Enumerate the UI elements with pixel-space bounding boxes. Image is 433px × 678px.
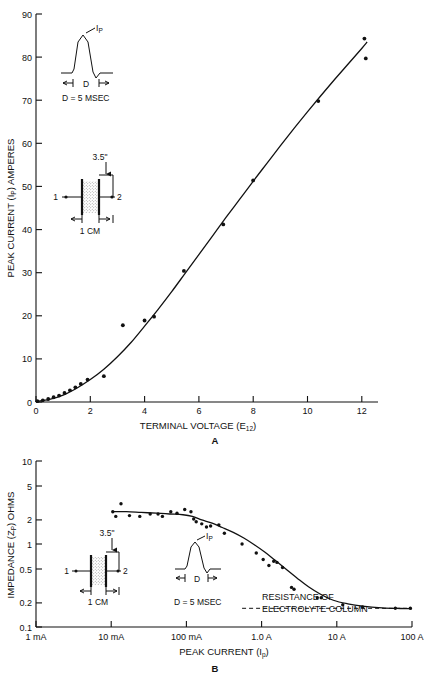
panel-b-pulse-peak-label: IP	[206, 531, 213, 542]
data-point	[251, 179, 255, 183]
panel-a-pulse-peak-label: IP	[96, 23, 103, 34]
panel-a-x-ticks	[36, 396, 362, 402]
data-point	[169, 510, 172, 513]
data-point	[175, 512, 178, 515]
panel-b-ytick-0.2: 0.2	[19, 598, 32, 608]
data-point	[73, 385, 77, 389]
data-point	[316, 99, 320, 103]
panel-a-ytick-70: 70	[22, 96, 32, 106]
panel-b-annotation-line2: ELECTROLYTE COLUMN	[262, 604, 368, 614]
data-point	[272, 560, 275, 563]
panel-a-xtick-2: 2	[88, 406, 93, 416]
data-point	[68, 388, 72, 392]
panel-a-y-tick-labels: 0 10 20 30 40 50 60 70 80 90	[22, 10, 32, 408]
panel-a-ytick-50: 50	[22, 182, 32, 192]
data-point	[119, 502, 122, 505]
panel-b-label: B	[212, 663, 219, 674]
data-point	[152, 315, 156, 319]
panel-b-annotation: RESISTANCE OF ELECTROLYTE COLUMN	[262, 592, 368, 614]
panel-a-ytick-40: 40	[22, 225, 32, 235]
panel-a-y-axis-title: PEAK CURRENT (IP) AMPERES	[5, 139, 17, 278]
panel-b-y-axis-title: IMPEDANCE (ZP) OHMS	[5, 492, 17, 599]
data-point	[183, 508, 186, 511]
data-point	[217, 523, 220, 526]
data-point	[275, 561, 278, 564]
panel-a-inset-width-label: 1 CM	[80, 226, 100, 236]
panel-a-xtick-4: 4	[142, 406, 147, 416]
panel-b-ytick-1: 1	[27, 540, 32, 550]
data-point	[128, 514, 131, 517]
chart-panel-a: 0 10 20 30 40 50 60 70 80 90	[5, 10, 378, 447]
panel-b-ytick-2: 2	[27, 515, 32, 525]
data-point	[79, 382, 83, 386]
panel-b-inset-width-label: 1 CM	[88, 597, 108, 607]
data-point	[161, 515, 164, 518]
panel-a-ytick-60: 60	[22, 139, 32, 149]
panel-a-terminal-1-label: 1	[53, 192, 58, 202]
panel-a-ytick-90: 90	[22, 10, 32, 20]
data-point	[363, 37, 367, 41]
data-point	[57, 394, 61, 398]
panel-a-xtick-6: 6	[196, 406, 201, 416]
panel-b-pulse-caption: D = 5 MSEC	[174, 597, 221, 607]
data-point	[148, 512, 151, 515]
data-point	[114, 515, 117, 518]
data-point	[240, 542, 243, 545]
panel-b-xtick-10ma: 10 mA	[98, 632, 124, 642]
data-point	[200, 522, 203, 525]
panel-a-ytick-10: 10	[22, 354, 32, 364]
panel-b-x-ticks	[36, 621, 412, 627]
data-point	[261, 558, 264, 561]
data-point	[111, 510, 114, 513]
panel-b-pulse-duration-label: D	[194, 574, 200, 584]
data-point	[121, 323, 125, 327]
data-point	[195, 520, 198, 523]
panel-a-ytick-20: 20	[22, 311, 32, 321]
panel-b-ytick-10: 10	[22, 457, 32, 467]
panel-a-terminal-2-label: 2	[117, 192, 122, 202]
panel-b-xtick-1a: 1.0 A	[251, 632, 272, 642]
panel-b-xtick-1ma: 1 mA	[25, 632, 46, 642]
chart-panel-b: 10 5 2 1 0.5 0.2 0.1 1 mA 10 mA 100 mA	[5, 457, 424, 675]
panel-b-x-axis-title: PEAK CURRENT (Ip)	[179, 646, 269, 659]
panel-a-xtick-10: 10	[302, 406, 312, 416]
panel-a-x-axis-title: TERMINAL VOLTAGE (E12)	[140, 420, 256, 432]
panel-a-pulse-caption: D = 5 MSEC	[62, 93, 109, 103]
panel-a-inset-pulse-waveform: IP D D = 5 MSEC	[61, 23, 113, 103]
panel-b-ytick-0.5: 0.5	[19, 565, 32, 575]
data-point	[255, 551, 258, 554]
panel-b-x-tick-labels: 1 mA 10 mA 100 mA 1.0 A 10 A 100 A	[25, 632, 423, 642]
data-point	[209, 524, 212, 527]
data-point	[281, 566, 284, 569]
data-point	[138, 515, 141, 518]
panel-a-xtick-8: 8	[251, 406, 256, 416]
panel-b-y-ticks	[36, 461, 42, 627]
panel-b-inset-height-label: 3.5"	[100, 528, 115, 538]
panel-a-inset-electrolyte-column: 1 2 3.5" 1 CM	[53, 152, 122, 236]
data-point	[63, 391, 67, 395]
data-point	[52, 395, 56, 399]
panel-b-xtick-100a: 100 A	[400, 632, 423, 642]
data-point	[267, 564, 270, 567]
data-point	[156, 512, 159, 515]
panel-b-terminal-1-label: 1	[64, 566, 69, 576]
data-point	[292, 588, 295, 591]
panel-a-pulse-duration-label: D	[83, 79, 89, 89]
data-point	[143, 319, 147, 323]
panel-a-x-tick-labels: 0 2 4 6 8 10 12	[33, 406, 366, 416]
panel-b-ytick-5: 5	[27, 482, 32, 492]
panel-b-inset-pulse-waveform: IP D D = 5 MSEC	[174, 531, 221, 607]
panel-a-inset-height-label: 3.5"	[93, 152, 108, 162]
data-point	[35, 399, 39, 403]
data-point	[221, 222, 225, 226]
data-point	[46, 397, 50, 401]
figure-root: 0 10 20 30 40 50 60 70 80 90	[0, 0, 433, 678]
panel-a-y-ticks	[36, 14, 42, 402]
panel-b-xtick-100ma: 100 mA	[171, 632, 202, 642]
panel-b-y-tick-labels: 10 5 2 1 0.5 0.2 0.1	[19, 457, 32, 633]
data-point	[86, 378, 90, 382]
panel-a-xtick-0: 0	[33, 406, 38, 416]
data-point	[182, 269, 186, 273]
panel-b-ytick-0.1: 0.1	[19, 623, 32, 633]
data-point	[364, 57, 368, 61]
